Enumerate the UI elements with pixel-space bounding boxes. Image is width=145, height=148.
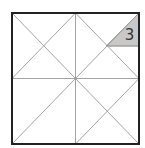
crease-lines [12,13,139,144]
region-number-label: 3 [125,26,135,44]
folding-square-diagram: 3 [0,0,145,148]
